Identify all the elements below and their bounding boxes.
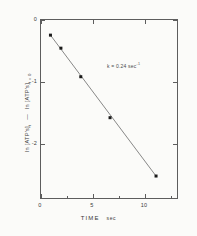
- y-axis-label-term1: ln [ATP's]: [24, 126, 30, 152]
- y-axis-label-term2: ln [ATP's]: [24, 83, 30, 109]
- data-point-marker: [155, 175, 158, 178]
- y-axis-label-sub2: t = 0: [27, 74, 32, 84]
- data-point-marker: [109, 116, 112, 119]
- y-axis-label-sub1: t: [27, 125, 32, 126]
- annotation-text: k = 0.24 sec: [107, 63, 137, 69]
- x-axis-label-text: TIME: [81, 215, 100, 221]
- y-axis-label: ln [ATP's]t—ln [ATP's]t = 0: [24, 23, 32, 203]
- annotation-superscript: -1: [137, 62, 141, 66]
- scientific-figure: 0 5 10 0 -1 -2 k = 0.24 sec-1 TIMEsec ln…: [0, 0, 197, 236]
- y-axis-label-dash: —: [24, 114, 30, 120]
- data-point-marker: [59, 47, 62, 50]
- fit-line: [50, 35, 156, 176]
- data-point-marker: [79, 75, 82, 78]
- x-axis-label: TIMEsec: [0, 215, 197, 221]
- data-point-marker: [49, 34, 52, 37]
- data-series: [49, 34, 158, 178]
- x-axis-unit: sec: [107, 215, 117, 221]
- rate-constant-annotation: k = 0.24 sec-1: [107, 62, 140, 69]
